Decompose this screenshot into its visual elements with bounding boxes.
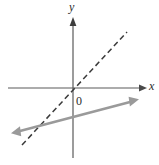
y-axis-arrowhead-icon — [70, 17, 77, 26]
gray-line-right-arrowhead-icon — [129, 97, 139, 107]
gray-line-left-arrowhead-icon — [11, 126, 21, 136]
figure-canvas — [0, 0, 159, 165]
coordinate-plane-figure: y x 0 — [0, 0, 159, 165]
x-axis-arrowhead-icon — [139, 85, 147, 92]
solid-gray-line — [19, 102, 131, 132]
y-axis-label: y — [69, 1, 74, 13]
solid-gray-line-series — [11, 97, 139, 136]
x-axis-label: x — [149, 80, 154, 92]
origin-label: 0 — [76, 95, 82, 107]
